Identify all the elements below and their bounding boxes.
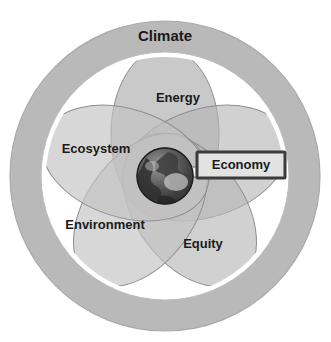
environment-label: Environment: [65, 217, 145, 232]
diagram-canvas: Economy Climate Energy Ecosystem Environ…: [0, 0, 331, 342]
equity-label: Equity: [183, 236, 223, 251]
ecosystem-label: Ecosystem: [62, 141, 131, 156]
energy-label: Energy: [156, 90, 201, 105]
sustainability-diagram: Economy Climate Energy Ecosystem Environ…: [0, 0, 331, 342]
climate-label: Climate: [138, 27, 192, 44]
economy-callout-label: Economy: [212, 157, 271, 172]
economy-callout-box[interactable]: Economy: [197, 152, 285, 178]
